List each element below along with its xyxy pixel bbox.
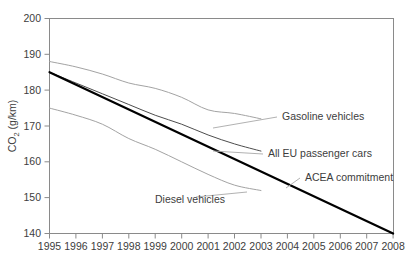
label-gasoline-vehicles: Gasoline vehicles <box>282 110 364 122</box>
y-tick-200: 200 <box>23 12 41 24</box>
chart-svg: 140 150 160 170 180 190 200 CO2 (g/km) <box>0 0 420 256</box>
y-tick-140: 140 <box>23 227 41 239</box>
label-acea-commitment: ACEA commitment <box>305 171 393 183</box>
x-tick-2006: 2006 <box>329 240 353 252</box>
annotation-labels: Gasoline vehicles All EU passenger cars … <box>155 110 393 205</box>
y-tick-170: 170 <box>23 120 41 132</box>
x-tick-2005: 2005 <box>302 240 326 252</box>
label-diesel-vehicles: Diesel vehicles <box>155 193 225 205</box>
x-tick-1999: 1999 <box>144 240 168 252</box>
series-line-all-eu-passenger-cars <box>50 72 261 151</box>
x-tick-2000: 2000 <box>170 240 194 252</box>
x-tick-1996: 1996 <box>64 240 88 252</box>
y-axis-title: CO2 (g/km) <box>6 100 21 153</box>
y-axis-ticks <box>45 19 50 234</box>
x-axis-ticks <box>50 234 394 239</box>
x-tick-2007: 2007 <box>355 240 379 252</box>
y-axis-title-units: (g/km) <box>6 100 18 133</box>
y-tick-150: 150 <box>23 191 41 203</box>
x-tick-1995: 1995 <box>38 240 62 252</box>
series-line-diesel-vehicles <box>50 108 261 190</box>
x-tick-2001: 2001 <box>196 240 220 252</box>
y-axis-labels: 140 150 160 170 180 190 200 <box>23 12 41 239</box>
leader-gasoline-vehicles <box>213 117 277 128</box>
x-tick-2008: 2008 <box>381 240 405 252</box>
x-axis-labels: 1995 1996 1997 1998 1999 2000 2001 2002 … <box>38 240 405 252</box>
y-tick-180: 180 <box>23 84 41 96</box>
y-tick-160: 160 <box>23 155 41 167</box>
co2-emissions-line-chart: 140 150 160 170 180 190 200 CO2 (g/km) <box>0 0 420 256</box>
x-tick-2002: 2002 <box>223 240 247 252</box>
x-tick-2003: 2003 <box>249 240 273 252</box>
x-tick-1997: 1997 <box>91 240 115 252</box>
label-all-eu-passenger-cars: All EU passenger cars <box>268 147 372 159</box>
y-axis-title-base: CO <box>6 137 18 153</box>
y-tick-190: 190 <box>23 48 41 60</box>
x-tick-2004: 2004 <box>276 240 300 252</box>
x-tick-1998: 1998 <box>117 240 141 252</box>
series-line-gasoline-vehicles <box>50 62 261 119</box>
